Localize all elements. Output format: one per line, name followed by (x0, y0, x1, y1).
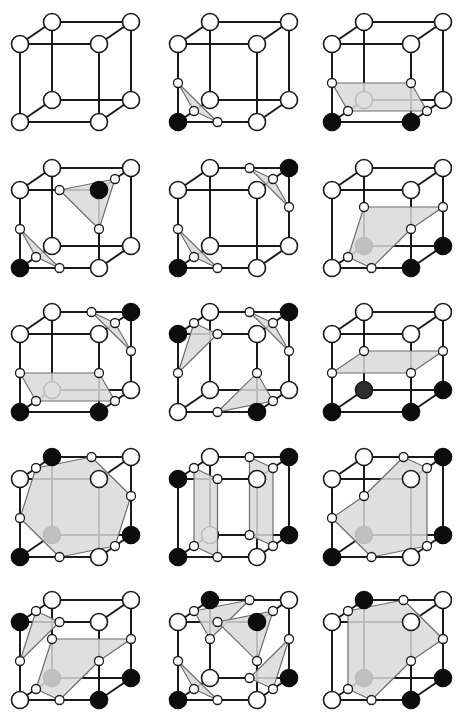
outside-vertex-icon (324, 36, 341, 53)
inside-vertex-icon (403, 692, 420, 709)
outside-vertex-icon (170, 404, 187, 421)
outside-vertex-icon (44, 14, 61, 31)
inside-vertex-icon (324, 549, 341, 566)
outside-vertex-icon (403, 614, 420, 631)
edge-intersection-icon (190, 464, 199, 473)
edge-intersection-icon (190, 253, 199, 262)
outside-vertex-icon (356, 449, 373, 466)
edge-intersection-icon (16, 514, 25, 523)
edge-intersection-icon (55, 553, 64, 562)
outside-vertex-icon (249, 36, 266, 53)
edge-intersection-icon (328, 369, 337, 378)
outside-vertex-icon (249, 549, 266, 566)
edge-intersection-icon (344, 253, 353, 262)
cube-case-9 (12, 449, 140, 566)
cube-case-4 (170, 160, 298, 277)
outside-vertex-icon (324, 692, 341, 709)
cube-case-1 (170, 14, 298, 131)
outside-vertex-icon (435, 92, 452, 109)
outside-vertex-icon (202, 304, 219, 321)
inside-vertex-icon (12, 404, 29, 421)
edge-intersection-icon (360, 203, 369, 212)
edge-intersection-icon (48, 635, 57, 644)
edge-intersection-icon (206, 635, 215, 644)
edge-intersection-icon (16, 225, 25, 234)
edge-intersection-icon (245, 674, 254, 683)
inside-vertex-icon (435, 449, 452, 466)
edge-intersection-icon (95, 657, 104, 666)
edge-intersection-icon (87, 308, 96, 317)
outside-vertex-icon (435, 304, 452, 321)
edge-intersection-icon (399, 453, 408, 462)
edge-intersection-icon (328, 79, 337, 88)
outside-vertex-icon (202, 92, 219, 109)
edge-intersection-icon (213, 618, 222, 627)
edge-intersection-icon (245, 164, 254, 173)
inside-vertex-icon (435, 238, 452, 255)
outside-vertex-icon (356, 14, 373, 31)
inside-vertex-icon (123, 527, 140, 544)
edge-intersection-icon (95, 369, 104, 378)
outside-vertex-icon (249, 182, 266, 199)
cube-case-5 (324, 160, 452, 277)
inside-vertex-icon (123, 670, 140, 687)
outside-vertex-icon (123, 160, 140, 177)
outside-vertex-icon (170, 36, 187, 53)
inside-vertex-icon (403, 260, 420, 277)
outside-vertex-icon (91, 549, 108, 566)
cube-case-13 (170, 592, 298, 709)
inside-vertex-icon (170, 326, 187, 343)
outside-vertex-icon (281, 592, 298, 609)
edge-intersection-icon (407, 369, 416, 378)
inside-vertex-icon (249, 404, 266, 421)
edge-intersection-icon (127, 492, 136, 501)
edge-intersection-icon (174, 657, 183, 666)
inside-vertex-icon (435, 527, 452, 544)
outside-vertex-icon (123, 238, 140, 255)
outside-vertex-icon (202, 238, 219, 255)
outside-vertex-icon (44, 92, 61, 109)
outside-vertex-icon (12, 114, 29, 131)
inside-vertex-icon (202, 592, 219, 609)
inside-vertex-icon (91, 692, 108, 709)
outside-vertex-icon (281, 238, 298, 255)
isosurface-polygon (348, 207, 443, 268)
outside-vertex-icon (123, 382, 140, 399)
edge-intersection-icon (87, 453, 96, 462)
inside-vertex-icon (324, 404, 341, 421)
edge-intersection-icon (360, 347, 369, 356)
outside-vertex-icon (91, 326, 108, 343)
inside-vertex-icon (12, 614, 29, 631)
outside-vertex-icon (91, 471, 108, 488)
edge-intersection-icon (213, 475, 222, 484)
edge-intersection-icon (174, 79, 183, 88)
edge-intersection-icon (269, 464, 278, 473)
edge-intersection-icon (32, 685, 41, 694)
inside-vertex-icon (281, 449, 298, 466)
cube-case-6 (12, 304, 140, 421)
edge-intersection-icon (423, 107, 432, 116)
edge-intersection-icon (111, 175, 120, 184)
outside-vertex-icon (202, 382, 219, 399)
outside-vertex-icon (324, 326, 341, 343)
outside-vertex-icon (249, 326, 266, 343)
edge-intersection-icon (111, 542, 120, 551)
edge-intersection-icon (407, 79, 416, 88)
outside-vertex-icon (403, 36, 420, 53)
outside-vertex-icon (202, 160, 219, 177)
edge-intersection-icon (269, 319, 278, 328)
cube-case-11 (324, 449, 452, 566)
edge-intersection-icon (423, 464, 432, 473)
outside-vertex-icon (249, 471, 266, 488)
edge-intersection-icon (55, 186, 64, 195)
edge-intersection-icon (190, 607, 199, 616)
cube-case-3 (12, 160, 140, 277)
edge-intersection-icon (32, 607, 41, 616)
inside-vertex-icon (12, 260, 29, 277)
isosurface-polygon (332, 351, 443, 373)
outside-vertex-icon (435, 160, 452, 177)
outside-vertex-icon (324, 182, 341, 199)
outside-vertex-icon (12, 36, 29, 53)
inside-vertex-icon (170, 471, 187, 488)
outside-vertex-icon (281, 92, 298, 109)
